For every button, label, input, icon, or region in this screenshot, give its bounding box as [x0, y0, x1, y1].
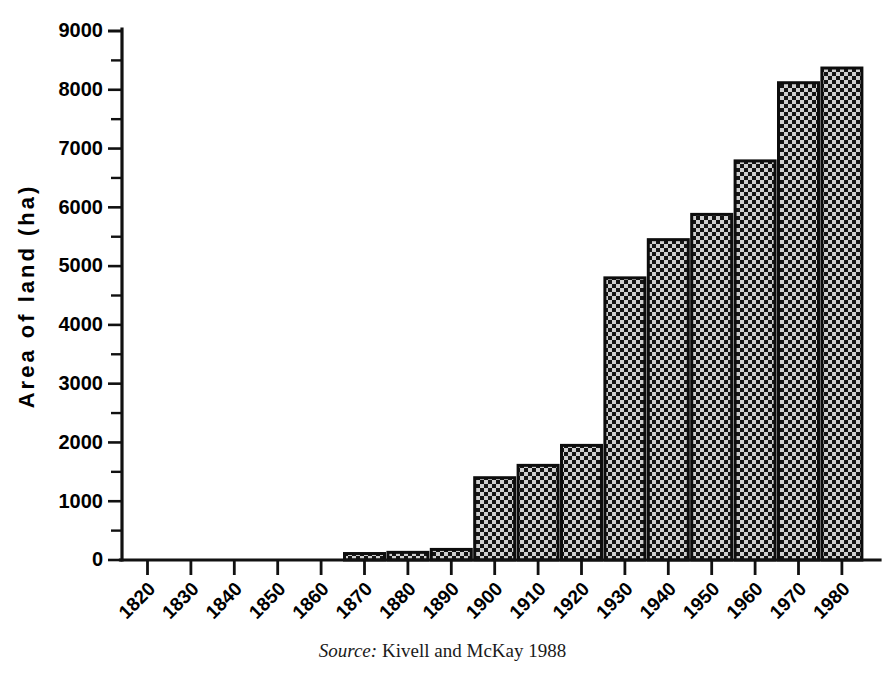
y-tick-label: 0	[92, 548, 103, 570]
y-tick-label: 9000	[59, 19, 104, 41]
y-tick-label: 8000	[59, 78, 104, 100]
bar	[692, 214, 732, 560]
y-tick-label: 6000	[59, 196, 104, 218]
x-axis-ticks	[148, 560, 842, 575]
x-tick-label: 1850	[245, 578, 290, 623]
y-tick-label: 5000	[59, 254, 104, 276]
y-tick-label: 3000	[59, 372, 104, 394]
y-tick-label: 4000	[59, 313, 104, 335]
x-tick-label: 1900	[462, 578, 507, 623]
source-text: Kivell and McKay 1988	[382, 640, 566, 661]
y-tick-label: 7000	[59, 137, 104, 159]
bar	[735, 161, 775, 560]
x-tick-label: 1820	[115, 578, 160, 623]
figure-container: Area of land (ha) 0100020003000400050006…	[0, 0, 885, 678]
y-tick-label: 2000	[59, 431, 104, 453]
x-tick-label: 1920	[549, 578, 594, 623]
x-tick-label: 1880	[375, 578, 420, 623]
bar	[648, 240, 688, 560]
x-tick-label: 1970	[766, 578, 811, 623]
y-axis-ticks: 0100020003000400050006000700080009000	[59, 19, 123, 570]
source-note: Source:Kivell and McKay 1988	[0, 640, 885, 662]
bar	[605, 278, 645, 560]
x-tick-label: 1960	[722, 578, 767, 623]
bar	[518, 465, 558, 560]
y-tick-label: 1000	[59, 490, 104, 512]
bar	[475, 478, 515, 560]
x-tick-label: 1980	[809, 578, 854, 623]
bar-chart: Area of land (ha) 0100020003000400050006…	[0, 0, 885, 678]
x-tick-label: 1940	[635, 578, 680, 623]
x-axis-labels: 1820183018401850186018701880189019001910…	[115, 578, 854, 623]
x-tick-label: 1890	[418, 578, 463, 623]
x-tick-label: 1930	[592, 578, 637, 623]
bar	[562, 445, 602, 560]
y-axis-title-label: Area of land (ha)	[14, 184, 39, 409]
x-tick-label: 1860	[288, 578, 333, 623]
bar	[822, 68, 862, 560]
x-tick-label: 1830	[158, 578, 203, 623]
bar	[779, 83, 819, 560]
x-tick-label: 1840	[201, 578, 246, 623]
y-axis-title: Area of land (ha)	[14, 184, 39, 409]
x-tick-label: 1910	[505, 578, 550, 623]
x-tick-label: 1870	[332, 578, 377, 623]
source-label: Source:	[319, 640, 377, 661]
bar-series	[345, 68, 862, 560]
x-tick-label: 1950	[679, 578, 724, 623]
